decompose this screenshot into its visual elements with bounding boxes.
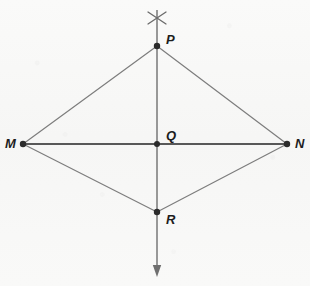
segment-PN — [157, 46, 287, 144]
geometry-figure: PMQNR — [0, 0, 310, 286]
arrow-down-icon — [153, 265, 161, 277]
vertex-label-p: P — [166, 33, 175, 46]
segment-MR — [23, 144, 157, 212]
kite-segments — [23, 46, 287, 212]
vertex-dot-m — [20, 141, 26, 147]
vertex-label-r: R — [166, 213, 175, 226]
vertex-dot-n — [284, 141, 290, 147]
vertex-dot-p — [154, 43, 160, 49]
figure-canvas — [0, 0, 310, 286]
vertex-dots — [20, 43, 290, 215]
vertex-dot-r — [154, 209, 160, 215]
vertex-label-m: M — [5, 137, 16, 150]
segment-MP — [23, 46, 157, 144]
vertex-dot-q — [154, 141, 160, 147]
vertex-label-q: Q — [166, 129, 176, 142]
vertex-label-n: N — [295, 137, 304, 150]
segment-RN — [157, 144, 287, 212]
